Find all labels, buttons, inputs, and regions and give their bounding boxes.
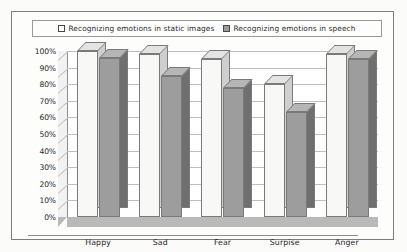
y-axis-tick: 90% [26, 63, 56, 72]
chart-legend: Recognizing emotions in static images Re… [32, 20, 382, 37]
y-axis-tick: 0% [26, 213, 56, 222]
bar-side-face [306, 103, 315, 208]
y-axis: 100%90%80%70%60%50%40%30%20%10%0% [20, 42, 56, 234]
y-axis-tick: 80% [26, 80, 56, 89]
bar [99, 58, 120, 217]
bar-front-face [201, 59, 222, 217]
x-axis-line [28, 235, 358, 236]
x-axis-label: Surpise [270, 238, 300, 247]
bar-front-face [99, 58, 120, 217]
bar [286, 112, 307, 217]
bar-group [316, 42, 378, 217]
bar [201, 59, 222, 217]
y-axis-tick: 50% [26, 130, 56, 139]
bar [161, 76, 182, 217]
x-axis-label: Sad [153, 238, 168, 247]
bar [326, 54, 347, 217]
bar-side-face [243, 79, 252, 208]
bar-groups [67, 42, 378, 227]
chart-page: Recognizing emotions in static images Re… [0, 0, 407, 252]
legend-entry-speech: Recognizing emotions in speech [223, 24, 355, 33]
bar-group [67, 42, 129, 217]
bar-front-face [348, 59, 369, 217]
bar-front-face [286, 112, 307, 217]
bar-front-face [139, 54, 160, 217]
bar [264, 84, 285, 217]
bar-group [254, 42, 316, 217]
x-axis-label: Happy [85, 238, 111, 247]
legend-entry-static-images: Recognizing emotions in static images [58, 24, 214, 33]
x-axis-label: Anger [335, 238, 359, 247]
bar [223, 88, 244, 217]
y-axis-tick: 60% [26, 113, 56, 122]
y-axis-tick: 20% [26, 179, 56, 188]
empty-square-icon [58, 25, 65, 32]
y-axis-tick: 10% [26, 196, 56, 205]
bar [77, 51, 98, 217]
bar [348, 59, 369, 217]
bar-front-face [77, 51, 98, 217]
bar-front-face [326, 54, 347, 217]
bar-front-face [161, 76, 182, 217]
plot-canvas [58, 42, 386, 234]
bar-front-face [223, 88, 244, 217]
bar-front-face [264, 84, 285, 217]
chart-frame: Recognizing emotions in static images Re… [11, 11, 394, 240]
bar-side-face [368, 50, 377, 208]
x-axis-label: Fear [214, 238, 231, 247]
bar-side-face [181, 67, 190, 208]
legend-label-speech: Recognizing emotions in speech [233, 24, 355, 33]
filled-square-icon [223, 25, 230, 32]
bar-group [129, 42, 191, 217]
legend-label-static-images: Recognizing emotions in static images [68, 24, 214, 33]
y-axis-tick: 70% [26, 96, 56, 105]
plot-area: 100%90%80%70%60%50%40%30%20%10%0% HappyS… [20, 42, 386, 234]
y-axis-tick: 40% [26, 146, 56, 155]
y-axis-tick: 100% [26, 47, 56, 56]
bar-group [191, 42, 253, 217]
x-axis-labels: HappySadFearSurpiseAnger [58, 238, 386, 252]
bar-side-face [119, 49, 128, 208]
y-axis-tick: 30% [26, 163, 56, 172]
bar [139, 54, 160, 217]
